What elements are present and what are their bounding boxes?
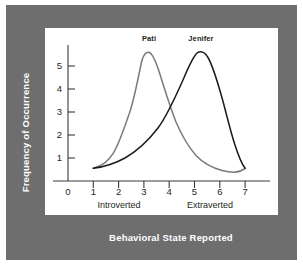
curve-pati [93,52,245,172]
curve-jenifer [93,52,245,169]
x-category-introverted: Introverted [81,200,157,210]
x-tick-label-6: 6 [210,186,230,197]
y-tick-label-4: 4 [45,83,62,94]
x-axis-title-band: Behavioral State Reported [45,215,297,260]
y-axis-title-band: Frequency of Occurrence [6,5,45,260]
x-axis-title: Behavioral State Reported [109,232,233,243]
y-axis-title: Frequency of Occurrence [20,73,31,193]
x-tick-label-4: 4 [159,186,179,197]
y-tick-label-3: 3 [45,106,62,117]
x-category-extraverted: Extraverted [169,200,251,210]
series-label-pati: Pati [125,34,173,43]
y-tick-label-2: 2 [45,129,62,140]
plot-panel: 0 1 2 3 4 5 6 7 1 2 3 4 5 Introverted Ex… [45,28,278,215]
x-tick-label-5: 5 [185,186,205,197]
y-tick-marks [68,66,75,158]
figure-container: Frequency of Occurrence Behavioral State… [0,0,303,265]
x-tick-label-2: 2 [109,186,129,197]
x-tick-label-1: 1 [83,186,103,197]
x-tick-label-0: 0 [58,186,78,197]
series-label-jenifer: Jenifer [173,34,229,43]
x-tick-label-7: 7 [235,186,255,197]
y-tick-label-5: 5 [45,60,62,71]
y-tick-label-1: 1 [45,152,62,163]
x-tick-label-3: 3 [134,186,154,197]
